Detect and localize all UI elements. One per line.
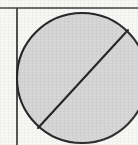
geometric-figure-svg [0,0,138,145]
figure-root [0,0,138,145]
filled-circle-shape [17,13,138,143]
